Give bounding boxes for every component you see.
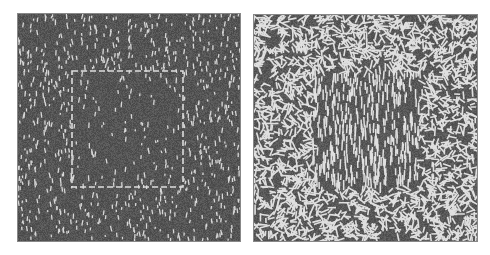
right-texture-panel (253, 14, 478, 242)
left-texture-panel (17, 13, 241, 242)
left-texture-canvas (18, 14, 240, 241)
right-texture-canvas (254, 15, 477, 241)
